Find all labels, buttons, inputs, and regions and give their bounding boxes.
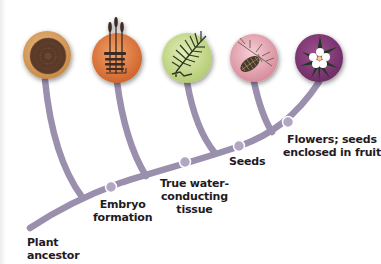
label-line: True water-: [160, 177, 229, 190]
node-water-tissue: [180, 157, 191, 168]
label-line: Flowers; seeds: [283, 133, 381, 146]
liverwort-icon: [23, 31, 71, 79]
branch-ferns: [187, 82, 215, 153]
label-line: tissue: [160, 203, 229, 216]
label-line: enclosed in fruit: [283, 146, 381, 159]
label-true-water-conducting-tissue: True water- conducting tissue: [160, 177, 229, 216]
label-line: Embryo: [93, 198, 152, 211]
branch-liverworts: [45, 80, 82, 197]
label-line: Plant: [27, 236, 79, 249]
label-embryo-formation: Embryo formation: [93, 198, 152, 224]
moss-icon: [92, 17, 142, 83]
branch-conifers: [254, 82, 272, 132]
label-line: conducting: [160, 190, 229, 203]
pinecone-icon: [230, 34, 278, 82]
node-embryo: [106, 182, 117, 193]
node-seeds: [234, 141, 245, 152]
fern-icon: [162, 31, 212, 83]
label-plant-ancestor: Plant ancestor: [27, 236, 79, 262]
branch-mosses: [117, 82, 146, 176]
flower-icon: [295, 34, 343, 82]
label-line: Seeds: [229, 155, 265, 168]
label-flowers-seeds-fruit: Flowers; seeds enclosed in fruit: [283, 133, 381, 159]
label-line: ancestor: [27, 249, 79, 262]
node-flowers: [283, 117, 294, 128]
label-seeds: Seeds: [229, 155, 265, 168]
label-line: formation: [93, 211, 152, 224]
